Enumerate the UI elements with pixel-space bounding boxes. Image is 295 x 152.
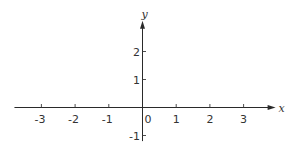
x-tick-label: -2 xyxy=(68,113,79,126)
y-axis-label: y xyxy=(141,8,149,21)
x-tick-label: -3 xyxy=(34,113,45,126)
x-axis-arrow-icon xyxy=(268,105,276,110)
y-tick-label: 1 xyxy=(133,74,140,87)
x-tick-label: -1 xyxy=(102,113,113,126)
x-axis-label: x xyxy=(279,102,286,115)
y-axis-arrow-icon xyxy=(140,21,145,29)
x-tick-label: 3 xyxy=(240,113,247,126)
x-tick-label: 1 xyxy=(173,113,180,126)
coordinate-plane: -3-2-112321-1 x y 0 xyxy=(0,0,295,152)
x-tick-label: 2 xyxy=(206,113,213,126)
y-tick-label: 2 xyxy=(133,46,140,59)
y-tick-label: -1 xyxy=(129,130,140,143)
origin-label: 0 xyxy=(145,113,152,126)
